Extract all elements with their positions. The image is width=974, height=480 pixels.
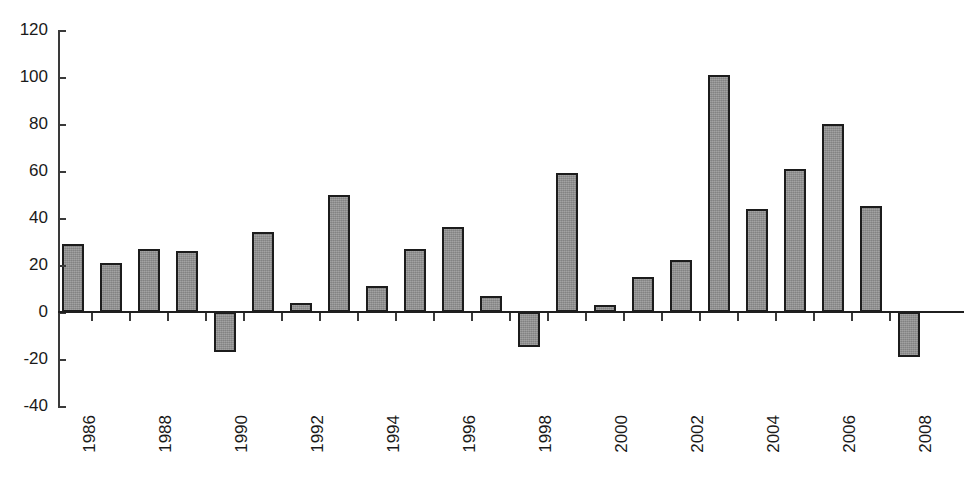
x-axis-label: 1994 [385,415,402,453]
bar [176,251,198,312]
x-axis-tick-mark [91,313,93,321]
x-axis-label: 1990 [233,415,250,453]
y-axis-tick-mark [58,406,66,408]
x-axis-label: 2000 [613,415,630,453]
bar [404,249,426,312]
bar [822,124,844,312]
bar [100,263,122,312]
bar [670,260,692,312]
y-axis-tick-label: 80 [29,115,48,132]
x-axis-tick-mark [851,313,853,321]
x-axis-label: 1996 [461,415,478,453]
x-axis-label: 2006 [841,415,858,453]
bar [518,312,540,347]
y-axis-tick-label: 40 [29,209,48,226]
x-axis-tick-mark [433,313,435,321]
bar [480,296,502,312]
bar [138,249,160,312]
x-axis-tick-mark [547,313,549,321]
bar [252,232,274,312]
bar [860,206,882,312]
y-axis-tick-label: 60 [29,162,48,179]
y-axis-tick-label: 20 [29,256,48,273]
bar [556,173,578,312]
x-axis-tick-mark [357,313,359,321]
bar [366,286,388,312]
x-axis-tick-mark [737,313,739,321]
bar-chart: 120100806040200-20-40 198619881990199219… [0,0,974,480]
y-axis-tick-mark [58,77,66,79]
y-axis-tick-label: -40 [23,397,48,414]
x-axis-label: 2002 [689,415,706,453]
x-axis-tick-mark [775,313,777,321]
bar [746,209,768,312]
x-axis-tick-mark [471,313,473,321]
bar [632,277,654,312]
x-axis-tick-mark [395,313,397,321]
plot-area [58,30,964,406]
x-axis-tick-mark [699,313,701,321]
x-axis-tick-mark [889,313,891,321]
y-axis-tick-label: -20 [23,350,48,367]
x-axis-label: 1998 [537,415,554,453]
x-axis-label: 2004 [765,415,782,453]
y-axis-tick-mark [58,265,66,267]
x-axis-tick-mark [205,313,207,321]
x-axis-tick-mark [509,313,511,321]
bar [328,195,350,313]
bar [708,75,730,312]
y-axis-tick-mark [58,359,66,361]
x-axis-tick-mark [243,313,245,321]
x-axis-label: 1986 [81,415,98,453]
bar [442,227,464,312]
x-axis-label: 1992 [309,415,326,453]
bar [62,244,84,312]
y-axis-tick-mark [58,218,66,220]
x-axis-label: 2008 [917,415,934,453]
x-axis-tick-mark [623,313,625,321]
x-axis-tick-mark [661,313,663,321]
y-axis-tick-label: 120 [20,21,48,38]
y-axis-tick-label: 100 [20,68,48,85]
bar [214,312,236,352]
x-axis-tick-mark [129,313,131,321]
x-axis-tick-mark [281,313,283,321]
x-axis-label: 1988 [157,415,174,453]
y-axis-tick-mark [58,124,66,126]
x-axis-tick-mark [319,313,321,321]
x-axis-tick-mark [585,313,587,321]
y-axis-tick-label: 0 [39,303,48,320]
x-axis-tick-mark [813,313,815,321]
bar [898,312,920,357]
y-axis-tick-mark [58,30,66,32]
x-axis-tick-mark [167,313,169,321]
bar [784,169,806,312]
y-axis-tick-mark [58,171,66,173]
zero-baseline [58,311,964,313]
